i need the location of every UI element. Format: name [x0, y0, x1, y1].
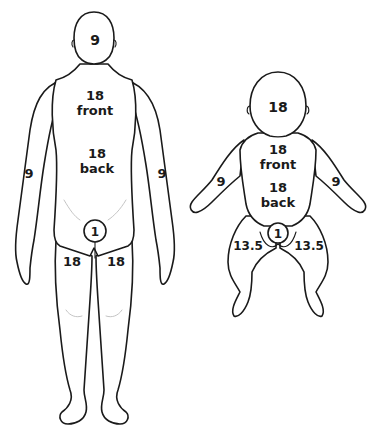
infant-perineum-label: 1 — [274, 227, 282, 241]
infant-head-label: 18 — [268, 99, 287, 115]
adult-head-label: 9 — [90, 32, 100, 48]
infant-left-leg-label: 13.5 — [233, 239, 263, 253]
adult-torso-front-text: front — [77, 103, 113, 118]
adult-torso-front-value: 18 — [86, 88, 104, 103]
infant-right-leg-label: 13.5 — [294, 239, 324, 253]
infant-torso-back-text: back — [261, 195, 296, 210]
infant-torso-front-value: 18 — [269, 142, 287, 157]
infant-figure: 18 18 front 18 back 9 9 1 13.5 13.5 — [190, 72, 365, 316]
adult-right-arm-label: 9 — [157, 166, 166, 181]
infant-torso-back-value: 18 — [269, 180, 287, 195]
infant-right-arm-label: 9 — [331, 174, 340, 189]
infant-left-arm-label: 9 — [216, 174, 225, 189]
adult-torso-back-value: 18 — [88, 146, 106, 161]
adult-left-leg-label: 18 — [63, 254, 81, 269]
adult-left-arm-label: 9 — [24, 166, 33, 181]
adult-right-leg-label: 18 — [107, 254, 125, 269]
adult-torso-back-text: back — [80, 161, 115, 176]
adult-perineum-label: 1 — [91, 225, 99, 239]
rule-of-nines-diagram: 9 18 front 18 back 9 9 1 18 18 18 18 fro… — [0, 0, 378, 444]
adult-figure: 9 18 front 18 back 9 9 1 18 18 — [15, 12, 174, 424]
infant-torso-front-text: front — [260, 157, 296, 172]
